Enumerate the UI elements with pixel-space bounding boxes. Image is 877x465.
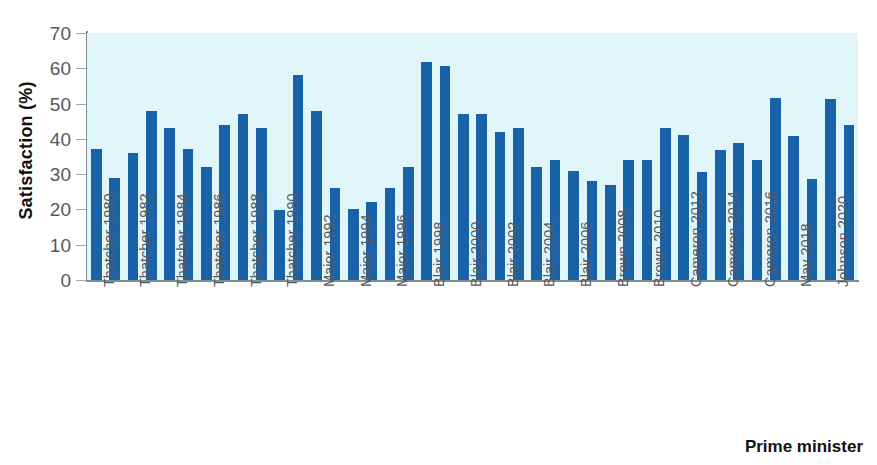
x-tick-label: Blair 2004 xyxy=(542,222,557,287)
x-tick-label: Thatcher 1982 xyxy=(138,193,153,287)
y-tick-label: 0 xyxy=(60,271,71,290)
x-tick-label: Blair 2002 xyxy=(506,222,521,287)
y-axis-title: Satisfaction (%) xyxy=(16,21,37,281)
x-tick-label: Thatcher 1980 xyxy=(102,193,117,287)
y-tick-label: 60 xyxy=(50,59,71,78)
bar xyxy=(348,209,359,280)
x-tick-label: Thatcher 1984 xyxy=(175,193,190,287)
bar xyxy=(238,114,249,280)
x-tick-label: Blair 2006 xyxy=(579,222,594,287)
x-tick-label: Blair 1998 xyxy=(432,222,447,287)
x-tick-label: Major 1994 xyxy=(359,214,374,287)
x-tick-label: Major 1992 xyxy=(322,214,337,287)
bar xyxy=(752,160,763,280)
y-tick-label: 10 xyxy=(50,236,71,255)
y-tick-label: 70 xyxy=(50,24,71,43)
y-tick-label: 20 xyxy=(50,200,71,219)
x-tick-label: Major 1996 xyxy=(395,214,410,287)
x-tick-label: Cameron 2016 xyxy=(763,191,778,287)
bar xyxy=(91,149,102,280)
x-tick-label: Brown 2010 xyxy=(652,210,667,287)
x-tick-label: Johnson 2020 xyxy=(836,196,851,287)
x-axis-title: Prime minister xyxy=(745,437,863,457)
bar xyxy=(605,185,616,280)
x-tick-label: May 2018 xyxy=(799,223,814,287)
x-tick-label: Thatcher 1988 xyxy=(249,193,264,287)
x-tick-label: Cameron 2014 xyxy=(726,191,741,287)
x-tick-label: Brown 2008 xyxy=(616,210,631,287)
x-tick-label: Cameron 2012 xyxy=(689,191,704,287)
x-tick-label: Blair 2000 xyxy=(469,222,484,287)
x-tick-label: Thatcher 1986 xyxy=(212,193,227,287)
bar-chart: Satisfaction (%) 010203040506070 Thatche… xyxy=(0,0,877,465)
x-tick-label: Thatcher 1990 xyxy=(285,193,300,287)
y-tick-label: 30 xyxy=(50,165,71,184)
y-tick-label: 40 xyxy=(50,130,71,149)
y-tick-label: 50 xyxy=(50,95,71,114)
bar xyxy=(495,132,506,280)
